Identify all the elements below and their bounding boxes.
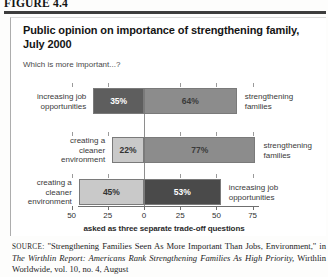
row-label-left: creating a cleaner environment bbox=[43, 136, 105, 165]
interior-tick bbox=[216, 83, 217, 87]
row-label-right: strengthening families bbox=[263, 141, 328, 160]
row-label-right: increasing job opportunities bbox=[229, 183, 297, 202]
bar-row: increasing job opportunities35%64%streng… bbox=[93, 88, 236, 114]
x-axis-tick bbox=[216, 206, 217, 210]
x-axis-tick-label: 75 bbox=[248, 211, 257, 220]
bar-segment-left: 35% bbox=[93, 88, 144, 114]
bar-segment-left: 45% bbox=[79, 179, 144, 205]
x-axis-tick bbox=[144, 206, 145, 210]
interior-tick bbox=[253, 132, 254, 136]
interior-tick bbox=[253, 174, 254, 178]
row-label-left: increasing job opportunities bbox=[24, 92, 86, 111]
bar-segment-right: 53% bbox=[144, 179, 221, 205]
source-text-1: "Strengthening Families Seen As More Imp… bbox=[44, 241, 326, 251]
interior-tick bbox=[216, 132, 217, 136]
x-axis-line bbox=[78, 206, 259, 207]
source-italic-1: The Wirthlin Report: Americans Rank Stre… bbox=[12, 253, 294, 263]
plot-area: 50250255075 increasing job opportunities… bbox=[0, 0, 328, 277]
source-note: SOURCE: "Strengthening Families Seen As … bbox=[12, 241, 326, 276]
interior-tick bbox=[108, 174, 109, 178]
x-axis-tick bbox=[253, 206, 254, 210]
bar-row: creating a cleaner environment45%53%incr… bbox=[79, 179, 221, 205]
x-axis-tick-label: 0 bbox=[142, 211, 146, 220]
interior-tick bbox=[216, 174, 217, 178]
x-axis-tick-label: 25 bbox=[176, 211, 185, 220]
x-axis-tick bbox=[108, 206, 109, 210]
interior-tick bbox=[108, 132, 109, 136]
interior-tick bbox=[72, 83, 73, 87]
x-axis-tick-label: 50 bbox=[212, 211, 221, 220]
bar-segment-left: 22% bbox=[112, 137, 144, 163]
bar-row: creating a cleaner environment22%77%stre… bbox=[112, 137, 255, 163]
bar-segment-right: 64% bbox=[144, 88, 237, 114]
x-axis-tick bbox=[72, 206, 73, 210]
interior-tick bbox=[108, 83, 109, 87]
interior-tick bbox=[180, 83, 181, 87]
x-axis-tick-label: 25 bbox=[103, 211, 112, 220]
interior-tick bbox=[253, 83, 254, 87]
axis-caption: asked as three separate trade-off questi… bbox=[0, 224, 328, 233]
row-label-right: strengthening families bbox=[245, 92, 313, 111]
bar-segment-right: 77% bbox=[144, 137, 255, 163]
x-axis-tick-label: 50 bbox=[67, 211, 76, 220]
source-prefix: SOURCE: bbox=[12, 243, 44, 251]
figure-page: FIGURE 4.4 Public opinion on importance … bbox=[0, 0, 328, 277]
interior-tick bbox=[180, 132, 181, 136]
row-label-left: creating a cleaner environment bbox=[10, 178, 72, 207]
x-axis-tick bbox=[180, 206, 181, 210]
interior-tick bbox=[180, 174, 181, 178]
